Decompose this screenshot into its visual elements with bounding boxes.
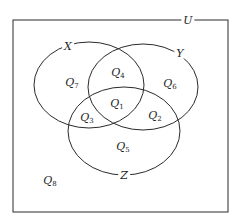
region-label-q5: Q5	[116, 141, 130, 154]
set-x-label: X	[62, 41, 74, 52]
region-label-q2: Q2	[148, 110, 162, 123]
region-label-q8: Q8	[43, 175, 57, 188]
region-subscript: 5	[125, 146, 129, 154]
region-label-q7: Q7	[65, 77, 79, 90]
region-label-q1: Q1	[110, 98, 124, 111]
region-label-q6: Q6	[163, 78, 177, 91]
region-subscript: 3	[89, 117, 93, 125]
region-subscript: 6	[172, 83, 176, 91]
set-y-label: Y	[174, 48, 185, 59]
set-z-ellipse	[68, 87, 180, 175]
venn-diagram	[0, 0, 241, 223]
region-subscript: 1	[119, 103, 123, 111]
region-label-q3: Q3	[80, 112, 94, 125]
region-subscript: 2	[157, 115, 161, 123]
region-subscript: 4	[120, 72, 124, 80]
universe-label: U	[181, 15, 194, 26]
region-subscript: 7	[74, 82, 78, 90]
region-label-q4: Q4	[111, 67, 125, 80]
region-subscript: 8	[52, 180, 56, 188]
set-z-label: Z	[118, 170, 130, 181]
